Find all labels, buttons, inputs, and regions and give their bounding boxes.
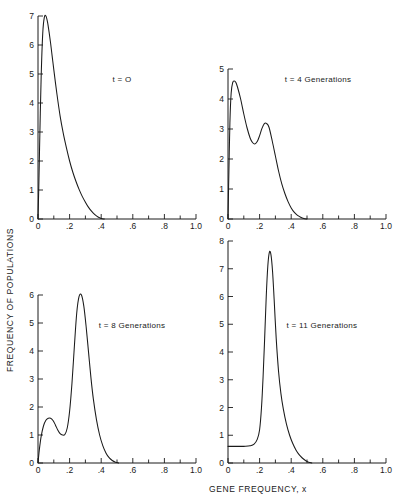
y-tick-label: 4 — [29, 98, 34, 108]
panel-t11: 0.2.4.6.81.0012345678t = 11 Generations — [219, 236, 392, 475]
x-tick-label: 0 — [36, 465, 41, 475]
x-tick-label: 0 — [226, 465, 231, 475]
x-tick-label: 1.0 — [190, 465, 202, 475]
y-tick-label: 1 — [219, 430, 224, 440]
x-tick-label: .6 — [129, 221, 136, 231]
y-tick-label: 0 — [29, 214, 34, 224]
x-tick-label: .8 — [351, 221, 358, 231]
axis-lines — [228, 241, 386, 463]
panel-t0: 0.2.4.6.81.001234567t = O — [29, 11, 202, 231]
figure-svg: FREQUENCY OF POPULATIONS GENE FREQUENCY,… — [0, 0, 407, 501]
y-tick-label: 8 — [219, 236, 224, 246]
y-tick-label: 1 — [29, 185, 34, 195]
y-tick-label: 7 — [29, 11, 34, 21]
panel-t4: 0.2.4.6.81.0012345t = 4 Generations — [219, 64, 392, 231]
x-tick-label: .2 — [256, 221, 263, 231]
axis-lines — [38, 16, 196, 219]
y-tick-label: 5 — [219, 319, 224, 329]
x-tick-label: 1.0 — [380, 221, 392, 231]
y-tick-label: 3 — [219, 375, 224, 385]
x-tick-label: .4 — [288, 221, 295, 231]
y-tick-label: 2 — [219, 403, 224, 413]
axis-lines — [228, 69, 386, 219]
y-tick-label: 5 — [29, 318, 34, 328]
x-tick-label: 0 — [36, 221, 41, 231]
y-tick-label: 2 — [29, 156, 34, 166]
y-tick-label: 5 — [29, 69, 34, 79]
y-tick-label: 1 — [29, 430, 34, 440]
x-tick-label: .6 — [319, 465, 326, 475]
y-tick-label: 7 — [219, 264, 224, 274]
x-tick-label: .6 — [129, 465, 136, 475]
x-tick-label: .4 — [98, 221, 105, 231]
y-tick-label: 4 — [219, 347, 224, 357]
y-tick-label: 3 — [29, 127, 34, 137]
gene-frequency-figure: FREQUENCY OF POPULATIONS GENE FREQUENCY,… — [0, 0, 407, 501]
x-tick-label: .8 — [351, 465, 358, 475]
x-tick-label: .2 — [256, 465, 263, 475]
y-tick-label: 6 — [29, 290, 34, 300]
distribution-curve — [228, 251, 312, 463]
y-tick-label: 0 — [219, 214, 224, 224]
x-tick-label: .2 — [66, 465, 73, 475]
y-tick-label: 3 — [29, 374, 34, 384]
x-tick-label: .6 — [319, 221, 326, 231]
x-tick-label: 1.0 — [190, 221, 202, 231]
panel-generation-label: t = 4 Generations — [285, 75, 352, 84]
x-axis-title: GENE FREQUENCY, x — [209, 484, 307, 494]
x-tick-label: 0 — [226, 221, 231, 231]
y-tick-label: 5 — [219, 64, 224, 74]
x-tick-label: .8 — [161, 221, 168, 231]
y-tick-label: 4 — [29, 346, 34, 356]
x-tick-label: .4 — [98, 465, 105, 475]
distribution-curve — [38, 15, 104, 219]
distribution-curve — [228, 81, 307, 219]
y-tick-label: 2 — [219, 154, 224, 164]
y-tick-label: 1 — [219, 184, 224, 194]
y-tick-label: 0 — [219, 458, 224, 468]
x-tick-label: .2 — [66, 221, 73, 231]
y-tick-label: 3 — [219, 124, 224, 134]
y-axis-title: FREQUENCY OF POPULATIONS — [5, 228, 15, 372]
distribution-curve — [38, 294, 119, 463]
panel-generation-label: t = 8 Generations — [99, 321, 166, 330]
panel-generation-label: t = O — [112, 75, 131, 84]
y-tick-label: 0 — [29, 458, 34, 468]
panel-generation-label: t = 11 Generations — [287, 321, 358, 330]
panel-t8: 0.2.4.6.81.00123456t = 8 Generations — [29, 290, 202, 475]
y-tick-label: 6 — [219, 292, 224, 302]
x-tick-label: .4 — [288, 465, 295, 475]
x-tick-label: 1.0 — [380, 465, 392, 475]
y-tick-label: 4 — [219, 94, 224, 104]
x-tick-label: .8 — [161, 465, 168, 475]
y-tick-label: 6 — [29, 40, 34, 50]
y-tick-label: 2 — [29, 402, 34, 412]
